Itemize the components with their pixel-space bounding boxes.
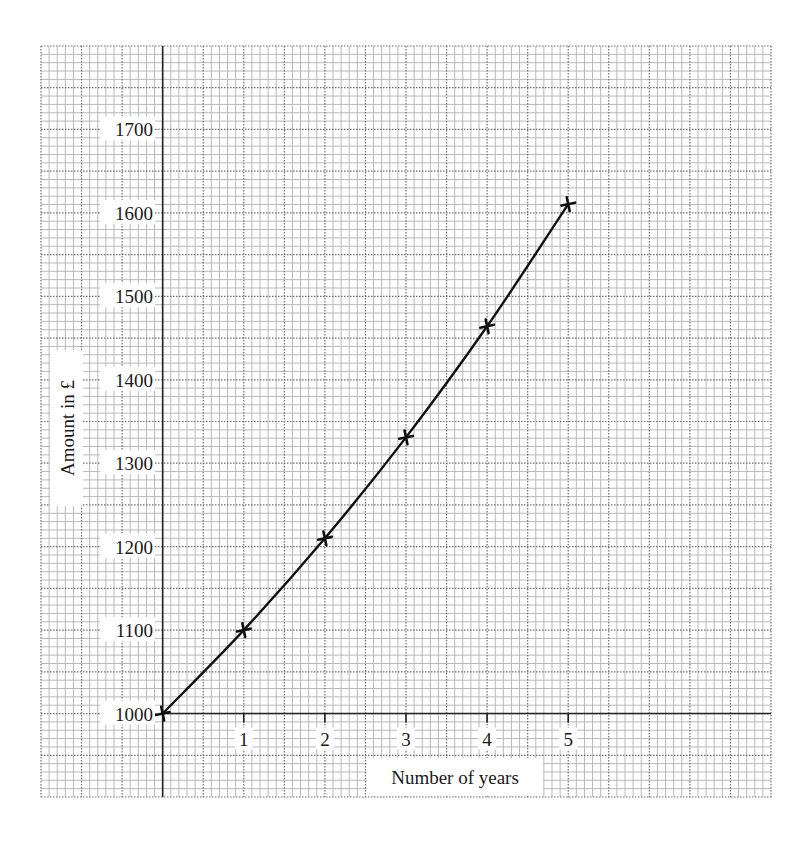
x-tick-label: 5 [563, 729, 573, 750]
tick-labels: 1234510001100120013001400150016001700 [100, 116, 577, 749]
x-axis-title: Number of years [367, 758, 543, 796]
y-tick-label: 1300 [115, 453, 153, 474]
y-tick-label: 1400 [115, 370, 153, 391]
y-tick-label: 1600 [115, 203, 153, 224]
graph-paper-chart: 1234510001100120013001400150016001700 Nu… [0, 0, 803, 841]
y-tick-label: 1000 [115, 704, 153, 725]
x-tick-label: 4 [482, 729, 492, 750]
y-axis-title: Amount in £ [50, 350, 83, 506]
y-tick-label: 1500 [115, 286, 153, 307]
cross-marker-icon [479, 318, 496, 335]
x-tick-label: 1 [239, 729, 249, 750]
y-tick-label: 1100 [116, 620, 153, 641]
x-tick-label: 2 [320, 729, 330, 750]
y-axis-title-text: Amount in £ [57, 380, 78, 476]
major-grid [41, 46, 771, 797]
y-tick-label: 1200 [115, 537, 153, 558]
cross-marker-icon [560, 196, 577, 213]
x-axis-title-text: Number of years [391, 767, 519, 788]
axes [163, 46, 771, 797]
x-tick-label: 3 [401, 729, 411, 750]
y-tick-label: 1700 [115, 119, 153, 140]
